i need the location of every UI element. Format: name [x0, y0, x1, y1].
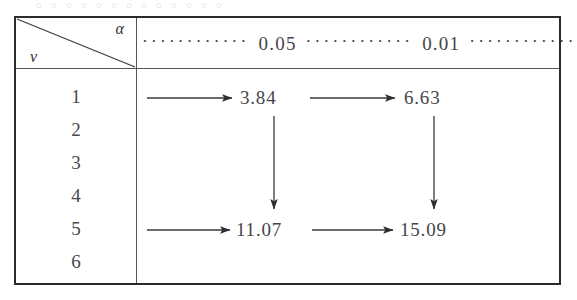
- row-label-column: 1 2 3 4 5 6: [16, 68, 136, 287]
- row-label: 4: [16, 179, 136, 212]
- alpha-symbol-label: α: [116, 21, 124, 37]
- row-label: 1: [16, 80, 136, 113]
- header-dots-middle: ············: [306, 33, 414, 50]
- header-dots-leading: ············: [142, 33, 250, 50]
- arrow-overlay: [136, 68, 561, 287]
- cropped-caption-strip: 。。。。。。。。。。。。。: [0, 0, 577, 13]
- row-label: 3: [16, 146, 136, 179]
- cell-value-row5-alpha005: 11.07: [236, 220, 282, 239]
- row-label: 6: [16, 245, 136, 278]
- row-label: 2: [16, 113, 136, 146]
- header-alpha-value-005: 0.05: [250, 34, 306, 53]
- caption-ghost-text: 。。。。。。。。。。。。。: [36, 0, 238, 10]
- header-alpha-row: ············ 0.05 ············ 0.01 ····…: [136, 18, 561, 68]
- cell-value-row1-alpha001: 6.63: [404, 88, 440, 107]
- row-label: 5: [16, 212, 136, 245]
- header-alpha-value-001: 0.01: [413, 34, 469, 53]
- header-dots-trailing: ············: [469, 33, 577, 50]
- nu-symbol-label: ν: [30, 49, 37, 65]
- chi-square-critical-values-table: α ν ············ 0.05 ············ 0.01 …: [14, 16, 561, 285]
- cell-value-row5-alpha001: 15.09: [400, 220, 447, 239]
- cell-value-row1-alpha005: 3.84: [240, 88, 276, 107]
- corner-header-cell: α ν: [16, 18, 136, 68]
- value-cells-area: 3.84 6.63 11.07 15.09: [136, 68, 561, 287]
